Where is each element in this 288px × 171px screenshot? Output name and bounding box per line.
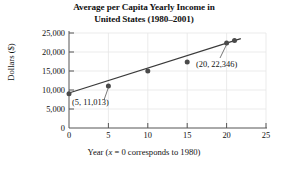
- x-tick-label: 10: [130, 131, 166, 140]
- gridlines: [69, 33, 266, 128]
- x-axis-label-suffix: = 0 corresponds to 1980): [112, 147, 200, 157]
- annotation-label-right: (20, 22,346): [196, 60, 237, 69]
- data-point: [145, 69, 150, 74]
- x-tick-label: 20: [209, 131, 245, 140]
- x-axis-label-prefix: Year (: [88, 147, 109, 157]
- plot-area: [0, 0, 288, 171]
- annotation-label-left: (5, 11,013): [72, 98, 109, 107]
- x-tick-label: 0: [51, 131, 87, 140]
- chart-figure: Average per Capita Yearly Income in Unit…: [0, 0, 288, 171]
- data-point: [185, 59, 190, 64]
- data-point: [67, 91, 72, 96]
- x-tick-label: 15: [169, 131, 205, 140]
- annotation-leader-lines: [104, 45, 227, 101]
- x-tick-label: 25: [248, 131, 284, 140]
- axis-lines: [69, 31, 267, 128]
- data-point: [232, 38, 237, 43]
- x-axis-label: Year (x = 0 corresponds to 1980): [0, 147, 288, 157]
- x-tick-label: 5: [90, 131, 126, 140]
